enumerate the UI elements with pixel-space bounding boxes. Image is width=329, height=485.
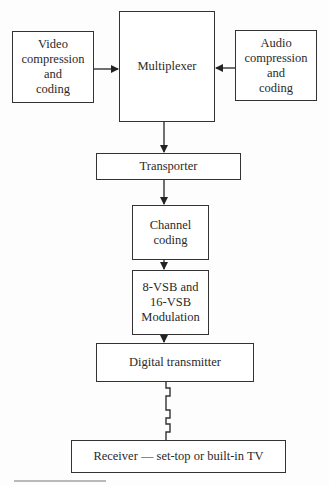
audio-compression-box: Audio compression and coding (235, 30, 317, 101)
video-compression-label: Video compression and coding (21, 37, 84, 97)
audio-compression-label: Audio compression and coding (244, 36, 307, 96)
block-diagram: Video compression and coding Multiplexer… (0, 0, 329, 485)
digital-transmitter-label: Digital transmitter (129, 355, 221, 370)
transporter-box: Transporter (96, 153, 241, 180)
receiver-label: Receiver — set-top or built-in TV (93, 449, 263, 464)
transporter-label: Transporter (140, 159, 198, 174)
multiplexer-label: Multiplexer (137, 59, 196, 74)
vsb-modulation-box: 8-VSB and 16-VSB Modulation (132, 270, 209, 335)
digital-transmitter-box: Digital transmitter (96, 343, 254, 382)
channel-coding-box: Channel coding (132, 205, 209, 260)
wireless-zigzag-link (166, 382, 170, 440)
channel-coding-label: Channel coding (150, 218, 192, 248)
multiplexer-box: Multiplexer (119, 11, 215, 122)
vsb-modulation-label: 8-VSB and 16-VSB Modulation (141, 280, 199, 325)
video-compression-box: Video compression and coding (12, 31, 94, 103)
receiver-box: Receiver — set-top or built-in TV (71, 440, 286, 473)
